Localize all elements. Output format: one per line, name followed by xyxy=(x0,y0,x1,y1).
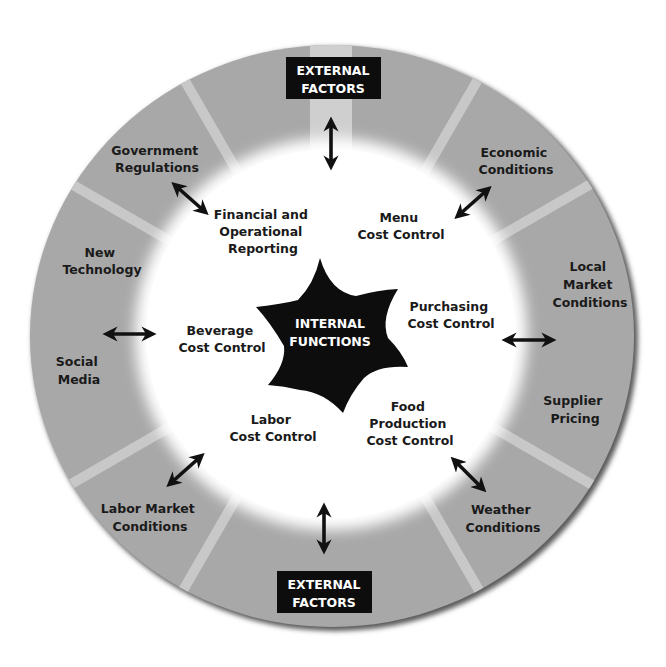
center-line1: INTERNAL xyxy=(295,316,365,331)
center-line2: FUNCTIONS xyxy=(289,334,371,349)
external-factors-box-bottom: EXTERNAL FACTORS xyxy=(277,571,372,613)
box-bottom-line2: FACTORS xyxy=(292,595,356,610)
box-top-line1: EXTERNAL xyxy=(297,63,370,78)
internal-external-factors-diagram: EXTERNAL FACTORS EXTERNAL FACTORS Govern… xyxy=(0,0,666,667)
label-financial-operational-reporting: Financial and Operational Reporting xyxy=(214,207,312,256)
external-factors-box-top: EXTERNAL FACTORS xyxy=(286,57,381,99)
box-top-line2: FACTORS xyxy=(301,81,365,96)
box-bottom-line1: EXTERNAL xyxy=(288,577,361,592)
